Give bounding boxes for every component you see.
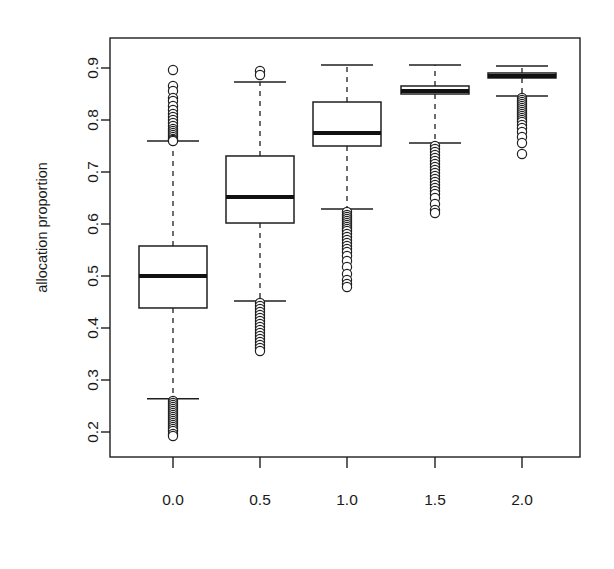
x-axis-tick-label: 2.0 (511, 491, 533, 508)
x-axis-tick-label: 0.5 (249, 491, 271, 508)
box-body (313, 102, 381, 146)
y-axis-tick-label: 0.4 (84, 317, 101, 339)
boxplot-canvas: 0.20.30.40.50.60.70.80.9allocation propo… (0, 0, 614, 569)
outlier-point (517, 138, 526, 147)
outlier-point (168, 136, 177, 145)
x-axis-tick-label: 1.5 (424, 491, 446, 508)
y-axis-tick-label: 0.6 (84, 213, 101, 235)
y-axis-tick-label: 0.8 (84, 109, 101, 131)
outlier-point (517, 149, 526, 158)
y-axis-title: allocation proportion (34, 162, 50, 293)
outlier-point (168, 65, 177, 74)
outlier-point (342, 282, 351, 291)
y-axis-tick-label: 0.5 (84, 265, 101, 287)
y-axis-tick-label: 0.7 (84, 161, 101, 183)
x-axis-tick-label: 1.0 (336, 491, 358, 508)
box-body (226, 156, 294, 223)
y-axis-tick-label: 0.3 (84, 369, 101, 391)
outlier-point (168, 431, 177, 440)
outlier-point (255, 346, 264, 355)
outlier-point (430, 208, 439, 217)
y-axis-tick-label: 0.2 (84, 421, 101, 443)
boxplot-figure: 0.20.30.40.50.60.70.80.9allocation propo… (0, 0, 614, 569)
y-axis-tick-label: 0.9 (84, 57, 101, 79)
outlier-point (255, 70, 264, 79)
x-axis-tick-label: 0.0 (162, 491, 184, 508)
